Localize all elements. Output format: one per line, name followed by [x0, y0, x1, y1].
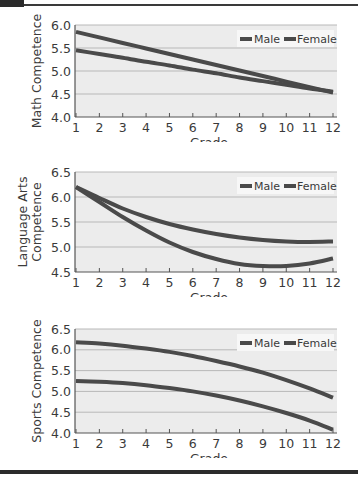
legend-swatch-male: [240, 184, 252, 188]
legend-label-female: Female: [297, 33, 337, 46]
legend-label-male: Male: [254, 33, 280, 46]
x-tick-label: 11: [302, 120, 318, 135]
x-tick-label: 6: [189, 275, 197, 290]
sports-competence-chart: 4.04.55.05.56.06.5123456789101112GradeSp…: [0, 309, 358, 458]
x-tick-label: 5: [165, 120, 173, 135]
x-tick-label: 8: [236, 275, 244, 290]
legend: MaleFemale: [237, 30, 337, 47]
legend-swatch-female: [284, 341, 296, 345]
x-tick-label: 8: [236, 120, 244, 135]
legend-label-male: Male: [254, 180, 280, 193]
x-tick-label: 11: [302, 436, 318, 451]
x-tick-label: 1: [72, 275, 80, 290]
x-tick-label: 2: [95, 120, 103, 135]
x-tick-label: 2: [95, 275, 103, 290]
x-tick-label: 7: [212, 436, 220, 451]
x-axis-label: Grade: [190, 135, 228, 142]
x-tick-label: 8: [236, 436, 244, 451]
x-axis-label: Grade: [190, 290, 228, 297]
x-tick-label: 9: [259, 436, 267, 451]
legend-swatch-male: [240, 37, 252, 41]
y-tick-label: 4.5: [51, 265, 71, 280]
y-axis-label: Math Competence: [29, 13, 44, 128]
y-tick-label: 5.5: [51, 363, 71, 378]
x-tick-label: 10: [278, 275, 294, 290]
x-tick-label: 12: [325, 436, 341, 451]
y-tick-label: 4.5: [51, 405, 71, 420]
legend: MaleFemale: [237, 334, 337, 351]
y-tick-label: 5.0: [51, 64, 71, 79]
x-tick-label: 12: [325, 120, 341, 135]
y-tick-label: 5.5: [51, 41, 71, 56]
math-competence-chart: 4.04.55.05.56.0123456789101112GradeMath …: [0, 5, 358, 142]
x-tick-label: 3: [119, 120, 127, 135]
x-tick-label: 1: [72, 436, 80, 451]
legend-swatch-female: [284, 37, 296, 41]
legend-label-male: Male: [254, 337, 280, 350]
x-tick-label: 4: [142, 120, 150, 135]
x-tick-label: 4: [142, 436, 150, 451]
y-axis-label: Sports Competence: [29, 319, 44, 443]
x-tick-label: 9: [259, 275, 267, 290]
x-tick-label: 5: [165, 436, 173, 451]
x-tick-label: 5: [165, 275, 173, 290]
y-tick-label: 5.0: [51, 384, 71, 399]
x-tick-label: 7: [212, 275, 220, 290]
x-tick-label: 3: [119, 436, 127, 451]
y-tick-label: 6.5: [51, 165, 71, 180]
y-tick-label: 4.0: [51, 426, 71, 441]
y-tick-label: 6.5: [51, 322, 71, 337]
x-tick-label: 7: [212, 120, 220, 135]
legend-label-female: Female: [297, 180, 337, 193]
y-tick-label: 4.0: [51, 110, 71, 125]
x-tick-label: 11: [302, 275, 318, 290]
x-tick-label: 3: [119, 275, 127, 290]
x-tick-label: 9: [259, 120, 267, 135]
x-tick-label: 10: [278, 120, 294, 135]
x-axis-label: Grade: [190, 451, 228, 458]
footer-rule: [0, 470, 358, 474]
y-axis-label: Language Arts: [15, 177, 30, 268]
y-tick-label: 6.0: [51, 18, 71, 33]
legend-label-female: Female: [297, 337, 337, 350]
x-tick-label: 6: [189, 436, 197, 451]
legend-swatch-female: [284, 184, 296, 188]
y-tick-label: 5.5: [51, 215, 71, 230]
x-tick-label: 4: [142, 275, 150, 290]
y-tick-label: 6.0: [51, 190, 71, 205]
x-tick-label: 12: [325, 275, 341, 290]
x-tick-label: 2: [95, 436, 103, 451]
x-tick-label: 6: [189, 120, 197, 135]
legend: MaleFemale: [237, 177, 337, 194]
y-tick-label: 4.5: [51, 87, 71, 102]
x-tick-label: 10: [278, 436, 294, 451]
legend-swatch-male: [240, 341, 252, 345]
y-tick-label: 5.0: [51, 240, 71, 255]
language-arts-competence-chart: 4.55.05.56.06.5123456789101112GradeLangu…: [0, 152, 358, 297]
y-tick-label: 6.0: [51, 342, 71, 357]
y-axis-label: Competence: [29, 182, 44, 262]
x-tick-label: 1: [72, 120, 80, 135]
